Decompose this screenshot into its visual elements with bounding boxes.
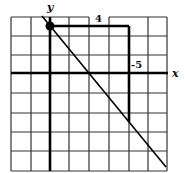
rise-label: -5 — [131, 59, 142, 70]
y-axis-label: y — [46, 1, 55, 14]
x-axis-label: x — [171, 67, 179, 80]
point-marker — [46, 22, 55, 31]
grid — [11, 17, 167, 171]
run-label: 4 — [95, 13, 102, 24]
coordinate-graph: y x 4 -5 — [0, 0, 185, 173]
